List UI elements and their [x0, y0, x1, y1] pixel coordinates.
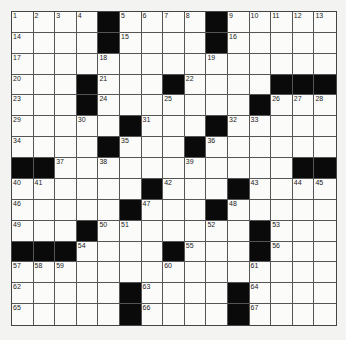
grid-cell[interactable] [77, 137, 99, 158]
grid-cell[interactable]: 66 [142, 304, 164, 325]
grid-cell[interactable] [77, 33, 99, 54]
grid-cell[interactable]: 44 [293, 179, 315, 200]
grid-cell[interactable] [314, 33, 336, 54]
grid-cell[interactable] [34, 200, 56, 221]
grid-cell[interactable]: 7 [163, 12, 185, 33]
grid-cell[interactable] [185, 221, 207, 242]
grid-cell[interactable]: 48 [228, 200, 250, 221]
grid-cell[interactable] [142, 95, 164, 116]
grid-cell[interactable]: 29 [12, 116, 34, 137]
grid-cell[interactable] [120, 95, 142, 116]
grid-cell[interactable] [228, 242, 250, 263]
grid-cell[interactable] [228, 95, 250, 116]
grid-cell[interactable] [98, 242, 120, 263]
grid-cell[interactable] [271, 200, 293, 221]
grid-cell[interactable] [55, 283, 77, 304]
grid-cell[interactable]: 10 [250, 12, 272, 33]
grid-cell[interactable] [163, 221, 185, 242]
grid-cell[interactable]: 5 [120, 12, 142, 33]
grid-cell[interactable] [34, 283, 56, 304]
grid-cell[interactable] [185, 95, 207, 116]
grid-cell[interactable] [163, 54, 185, 75]
grid-cell[interactable]: 31 [142, 116, 164, 137]
grid-cell[interactable]: 28 [314, 95, 336, 116]
grid-cell[interactable]: 6 [142, 12, 164, 33]
grid-cell[interactable]: 63 [142, 283, 164, 304]
grid-cell[interactable] [77, 158, 99, 179]
grid-cell[interactable] [250, 75, 272, 96]
grid-cell[interactable] [55, 116, 77, 137]
grid-cell[interactable] [206, 283, 228, 304]
grid-cell[interactable] [120, 54, 142, 75]
grid-cell[interactable] [228, 75, 250, 96]
grid-cell[interactable]: 26 [271, 95, 293, 116]
grid-cell[interactable] [163, 200, 185, 221]
grid-cell[interactable] [55, 95, 77, 116]
grid-cell[interactable] [185, 262, 207, 283]
grid-cell[interactable] [271, 179, 293, 200]
grid-cell[interactable]: 23 [12, 95, 34, 116]
grid-cell[interactable] [142, 137, 164, 158]
grid-cell[interactable] [228, 54, 250, 75]
grid-cell[interactable]: 21 [98, 75, 120, 96]
grid-cell[interactable] [142, 54, 164, 75]
grid-cell[interactable] [142, 221, 164, 242]
grid-cell[interactable] [34, 137, 56, 158]
grid-cell[interactable] [120, 179, 142, 200]
grid-cell[interactable]: 54 [77, 242, 99, 263]
grid-cell[interactable] [185, 54, 207, 75]
grid-cell[interactable]: 30 [77, 116, 99, 137]
grid-cell[interactable]: 3 [55, 12, 77, 33]
grid-cell[interactable] [314, 242, 336, 263]
grid-cell[interactable]: 64 [250, 283, 272, 304]
grid-cell[interactable] [98, 179, 120, 200]
grid-cell[interactable]: 25 [163, 95, 185, 116]
grid-cell[interactable]: 33 [250, 116, 272, 137]
grid-cell[interactable] [142, 33, 164, 54]
grid-cell[interactable] [228, 262, 250, 283]
grid-cell[interactable] [55, 179, 77, 200]
grid-cell[interactable]: 62 [12, 283, 34, 304]
grid-cell[interactable] [55, 221, 77, 242]
grid-cell[interactable]: 45 [314, 179, 336, 200]
grid-cell[interactable] [185, 283, 207, 304]
grid-cell[interactable] [250, 54, 272, 75]
grid-cell[interactable] [293, 262, 315, 283]
grid-cell[interactable]: 24 [98, 95, 120, 116]
grid-cell[interactable]: 38 [98, 158, 120, 179]
grid-cell[interactable] [293, 242, 315, 263]
grid-cell[interactable]: 41 [34, 179, 56, 200]
grid-cell[interactable] [293, 221, 315, 242]
grid-cell[interactable] [250, 200, 272, 221]
grid-cell[interactable] [314, 116, 336, 137]
grid-cell[interactable]: 52 [206, 221, 228, 242]
grid-cell[interactable] [206, 95, 228, 116]
grid-cell[interactable] [163, 33, 185, 54]
grid-cell[interactable] [228, 137, 250, 158]
grid-cell[interactable] [293, 54, 315, 75]
grid-cell[interactable] [77, 200, 99, 221]
grid-cell[interactable] [271, 33, 293, 54]
grid-cell[interactable] [314, 221, 336, 242]
grid-cell[interactable] [228, 158, 250, 179]
grid-cell[interactable]: 42 [163, 179, 185, 200]
grid-cell[interactable]: 34 [12, 137, 34, 158]
grid-cell[interactable] [77, 283, 99, 304]
grid-cell[interactable] [98, 304, 120, 325]
grid-cell[interactable] [98, 262, 120, 283]
grid-cell[interactable]: 17 [12, 54, 34, 75]
grid-cell[interactable]: 40 [12, 179, 34, 200]
grid-cell[interactable] [293, 116, 315, 137]
grid-cell[interactable] [34, 54, 56, 75]
grid-cell[interactable]: 60 [163, 262, 185, 283]
grid-cell[interactable] [293, 137, 315, 158]
grid-cell[interactable]: 19 [206, 54, 228, 75]
grid-cell[interactable]: 37 [55, 158, 77, 179]
grid-cell[interactable] [271, 54, 293, 75]
grid-cell[interactable]: 14 [12, 33, 34, 54]
grid-cell[interactable] [206, 304, 228, 325]
grid-cell[interactable]: 39 [185, 158, 207, 179]
grid-cell[interactable]: 46 [12, 200, 34, 221]
grid-cell[interactable] [314, 137, 336, 158]
grid-cell[interactable]: 61 [250, 262, 272, 283]
